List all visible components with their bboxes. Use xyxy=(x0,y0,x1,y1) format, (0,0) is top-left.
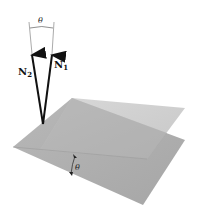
arc-arrowhead-bottom xyxy=(69,172,73,176)
normal-vector-n1 xyxy=(43,55,52,124)
extension-line-n1 xyxy=(52,22,54,54)
label-n2: N2 xyxy=(18,66,32,79)
label-n1: N1 xyxy=(54,59,68,72)
angle-arc-top xyxy=(30,27,53,29)
extension-line-n2 xyxy=(29,22,32,54)
theta-label-planes: θ xyxy=(75,163,80,172)
normal-vector-n2 xyxy=(32,55,43,124)
planes-normals-diagram: θ N2 N1 θ xyxy=(0,0,205,209)
theta-label-top: θ xyxy=(38,16,43,25)
